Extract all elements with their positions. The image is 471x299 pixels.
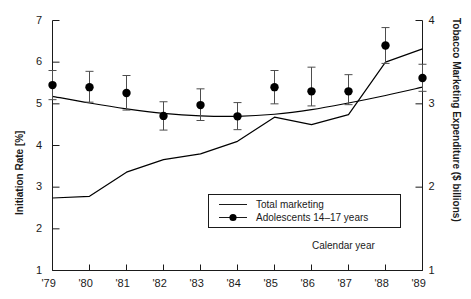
x-tick-label-'85: '85 <box>264 277 278 289</box>
left-axis-ticks <box>53 21 60 271</box>
x-tick-label-'82: '82 <box>153 277 167 289</box>
x-tick-label-'79: '79 <box>42 277 56 289</box>
right-tick-label-2: 2 <box>429 180 435 192</box>
left-tick-label-3: 3 <box>36 180 42 192</box>
left-tick-label-2: 2 <box>36 222 42 234</box>
left-tick-label-4: 4 <box>36 139 42 151</box>
axes-frame <box>53 21 423 271</box>
left-tick-label-1: 1 <box>36 264 42 276</box>
x-tick-label-'87: '87 <box>338 277 352 289</box>
chart-plot-area <box>0 0 471 299</box>
right-tick-label-1: 1 <box>429 264 435 276</box>
x-tick-label-'89: '89 <box>412 277 426 289</box>
legend-item-total-marketing: Total marketing <box>256 199 324 210</box>
left-axis-title: Initiation Rate [%] <box>14 131 25 215</box>
x-axis-title: Calendar year <box>312 240 375 251</box>
series-adolescents-points <box>48 28 426 130</box>
x-tick-label-'88: '88 <box>375 277 389 289</box>
right-axis-ticks <box>416 21 423 271</box>
left-tick-label-6: 6 <box>36 55 42 67</box>
x-tick-label-'86: '86 <box>301 277 315 289</box>
x-tick-label-'81: '81 <box>116 277 130 289</box>
left-tick-label-7: 7 <box>36 14 42 26</box>
right-axis-title: Tobacco Marketing Expenditure ($ billion… <box>451 18 462 222</box>
x-tick-label-'83: '83 <box>190 277 204 289</box>
legend-item-adolescents: Adolescents 14–17 years <box>256 212 368 223</box>
right-tick-label-3: 3 <box>429 97 435 109</box>
x-axis-ticks <box>53 265 423 271</box>
left-tick-label-5: 5 <box>36 97 42 109</box>
x-tick-label-'84: '84 <box>227 277 241 289</box>
right-tick-label-4: 4 <box>429 14 435 26</box>
chart-figure: Initiation Rate [%] Tobacco Marketing Ex… <box>0 0 471 299</box>
x-tick-label-'80: '80 <box>79 277 93 289</box>
